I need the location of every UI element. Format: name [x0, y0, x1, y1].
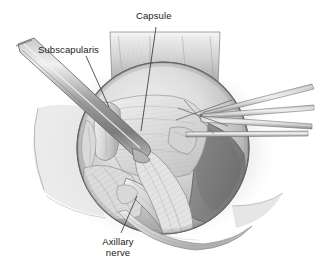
surgical-illustration-figure: Capsule Subscapularis Axillary nerve	[0, 0, 321, 276]
label-axillary-nerve: Axillary nerve	[88, 236, 148, 258]
label-subscapularis: Subscapularis	[38, 44, 99, 55]
label-capsule: Capsule	[136, 10, 172, 21]
label-axillary-nerve-line2: nerve	[88, 247, 148, 258]
label-axillary-nerve-line1: Axillary	[88, 236, 148, 247]
probe-horizontal	[186, 131, 308, 137]
illustration-canvas	[0, 0, 321, 276]
